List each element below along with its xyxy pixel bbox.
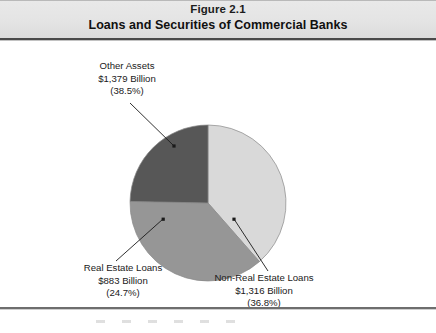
- leader-dot-real-estate-loans: [162, 218, 165, 221]
- pie-label-non-real-estate-loans-name: Non-Real Estate Loans: [186, 272, 342, 285]
- leader-dot-other-assets: [172, 144, 175, 147]
- pie-label-real-estate-loans-name: Real Estate Loans: [48, 262, 198, 275]
- leader-dot-non-real-estate-loans: [232, 218, 235, 221]
- pie-label-other-assets: Other Assets $1,379 Billion (38.5%): [62, 60, 192, 98]
- figure-number: Figure 2.1: [0, 2, 436, 17]
- figure-header-band: Figure 2.1 Loans and Securities of Comme…: [0, 0, 436, 38]
- pie-label-real-estate-loans: Real Estate Loans $883 Billion (24.7%): [48, 262, 198, 300]
- pie-label-other-assets-percent: (38.5%): [62, 85, 192, 98]
- pie-label-real-estate-loans-value: $883 Billion: [48, 275, 198, 288]
- scan-artifact-strip: [0, 310, 436, 333]
- pie-label-non-real-estate-loans-value: $1,316 Billion: [186, 285, 342, 298]
- header-text-group: Figure 2.1 Loans and Securities of Comme…: [0, 2, 436, 33]
- pie-label-non-real-estate-loans: Non-Real Estate Loans $1,316 Billion (36…: [186, 272, 342, 310]
- header-top-hairline: [0, 0, 436, 1]
- pie-label-other-assets-name: Other Assets: [62, 60, 192, 73]
- pie-label-other-assets-value: $1,379 Billion: [62, 73, 192, 86]
- figure-container: Figure 2.1 Loans and Securities of Comme…: [0, 0, 436, 333]
- pie-label-real-estate-loans-percent: (24.7%): [48, 287, 198, 300]
- figure-title: Loans and Securities of Commercial Banks: [0, 17, 436, 33]
- leader-line-other-assets: [130, 103, 174, 146]
- pie-slice-real-estate-loans: [130, 125, 208, 203]
